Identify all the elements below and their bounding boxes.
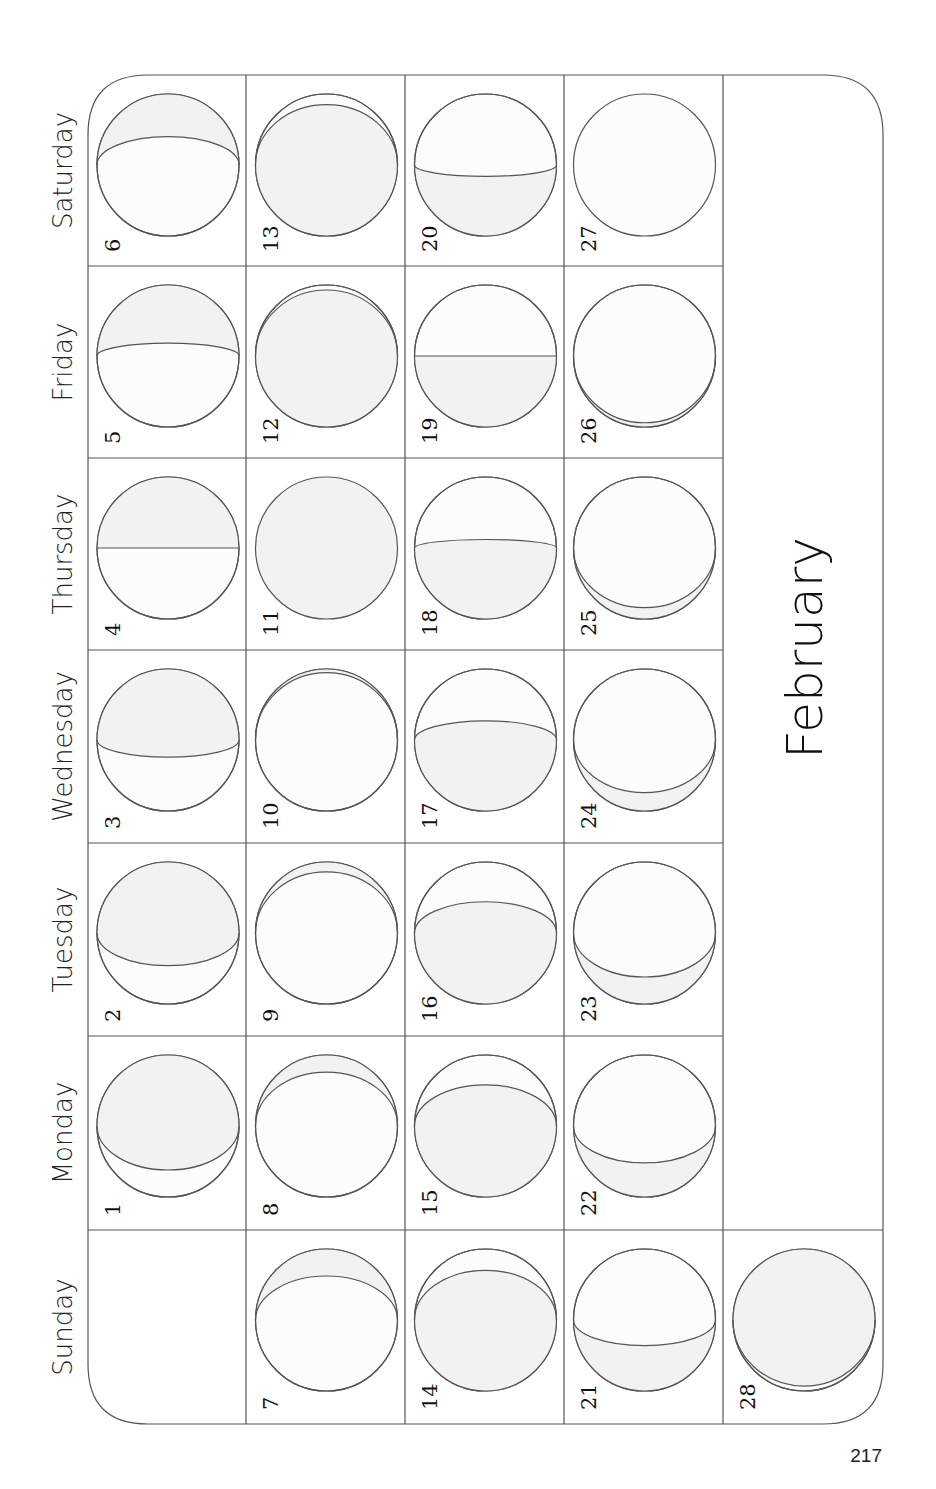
moon-shadow [97,669,239,757]
date-number: 11 [259,609,283,636]
date-number: 13 [259,225,283,252]
date-number: 22 [577,1189,601,1216]
date-number: 12 [259,417,283,444]
moon-shadow [415,902,557,1004]
day-cell[interactable]: 11 [256,477,398,636]
day-cell[interactable]: 23 [574,862,716,1022]
day-cell[interactable]: 2 [97,862,239,1022]
day-cell[interactable]: 16 [415,862,557,1022]
day-cell[interactable]: 14 [415,1249,557,1410]
february-moon-calendar: 1234567891011121314151617181920212223242… [0,0,936,1489]
date-number: 4 [101,623,125,636]
day-cell[interactable]: 7 [256,1249,398,1410]
moon-shadow [415,1270,557,1391]
date-number: 5 [101,431,125,444]
page-number: 217 [850,1445,882,1466]
moon-shadow [97,477,239,548]
moon-phase-cells: 1234567891011121314151617181920212223242… [97,94,875,1410]
date-number: 3 [101,816,125,829]
moon-shadow [415,356,557,427]
day-cell[interactable]: 10 [256,669,398,829]
date-number: 6 [101,239,125,252]
date-number: 8 [259,1203,283,1216]
calendar-page: 1234567891011121314151617181920212223242… [0,0,936,1489]
day-cell[interactable]: 1 [97,1055,239,1216]
day-cell[interactable]: 5 [97,285,239,444]
weekday-label-saturday: Saturday [48,112,78,229]
moon-shadow [97,862,239,966]
day-cell[interactable]: 4 [97,477,239,636]
date-number: 23 [577,995,601,1022]
day-cell[interactable]: 3 [97,669,239,829]
day-cell[interactable]: 22 [574,1055,716,1216]
date-number: 7 [259,1397,283,1410]
weekday-label-tuesday: Tuesday [48,887,78,993]
date-number: 19 [418,417,442,444]
month-title: February [776,537,834,759]
date-number: 24 [577,802,601,829]
day-cell[interactable]: 25 [574,477,716,636]
weekday-labels: SaturdayFridayThursdayWednesdayTuesdayMo… [48,112,78,1376]
moon-shadow [415,539,557,619]
day-cell[interactable]: 13 [256,94,398,252]
date-number: 28 [736,1383,760,1410]
weekday-label-sunday: Sunday [48,1278,78,1375]
date-number: 18 [418,609,442,636]
weekday-label-friday: Friday [48,323,78,402]
date-number: 2 [101,1009,125,1022]
day-cell[interactable]: 24 [574,669,716,829]
moon-shadow [415,721,557,811]
day-cell[interactable]: 12 [256,285,398,444]
day-cell[interactable]: 18 [415,477,557,636]
date-number: 21 [577,1383,601,1410]
date-number: 15 [418,1189,442,1216]
date-number: 10 [259,802,283,829]
day-cell[interactable]: 9 [256,862,398,1022]
moon-shadow [97,1055,239,1170]
date-number: 26 [577,417,601,444]
weekday-label-wednesday: Wednesday [48,671,78,822]
date-number: 27 [577,225,601,252]
date-number: 20 [418,225,442,252]
date-number: 9 [259,1009,283,1022]
date-number: 25 [577,609,601,636]
day-cell[interactable]: 6 [97,94,239,252]
moon-icon [574,94,716,236]
date-number: 17 [418,802,442,829]
day-cell[interactable]: 28 [733,1249,875,1410]
day-cell[interactable]: 17 [415,669,557,829]
day-cell[interactable]: 8 [256,1055,398,1216]
date-number: 16 [418,995,442,1022]
weekday-label-monday: Monday [48,1082,78,1185]
day-cell[interactable]: 20 [415,94,557,252]
weekday-label-thursday: Thursday [48,494,78,615]
moon-icon [256,477,398,619]
day-cell[interactable]: 21 [574,1249,716,1410]
moon-shadow [415,1085,557,1197]
date-number: 1 [101,1203,125,1216]
day-cell[interactable]: 27 [574,94,716,252]
day-cell[interactable]: 15 [415,1055,557,1216]
date-number: 14 [418,1383,442,1410]
day-cell[interactable]: 19 [415,285,557,444]
day-cell[interactable]: 26 [574,285,716,444]
